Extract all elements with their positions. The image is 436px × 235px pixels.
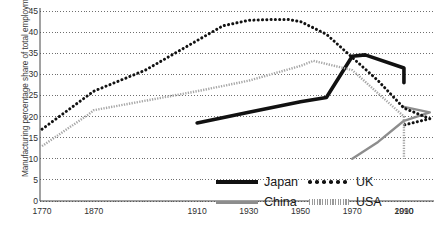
- legend-label-usa: USA: [356, 196, 382, 209]
- dotted-line-icon: [308, 176, 350, 188]
- x-tick-1770: 1770: [32, 206, 51, 216]
- x-tick-1870: 1870: [84, 206, 103, 216]
- hatched-line-icon: [308, 196, 350, 208]
- chart-container: Manufacturing percentage share of total …: [0, 0, 436, 235]
- chart-legend: Japan UK China USA: [216, 172, 434, 212]
- thin-solid-line-icon: [216, 196, 258, 208]
- thick-solid-line-icon: [216, 176, 258, 188]
- legend-item-china[interactable]: China: [216, 196, 308, 209]
- legend-item-japan[interactable]: Japan: [216, 176, 308, 189]
- legend-item-usa[interactable]: USA: [308, 196, 434, 209]
- legend-label-japan: Japan: [264, 176, 298, 189]
- legend-label-china: China: [264, 196, 297, 209]
- x-tick-1910: 1910: [188, 206, 207, 216]
- legend-item-uk[interactable]: UK: [308, 176, 434, 189]
- legend-label-uk: UK: [356, 176, 373, 189]
